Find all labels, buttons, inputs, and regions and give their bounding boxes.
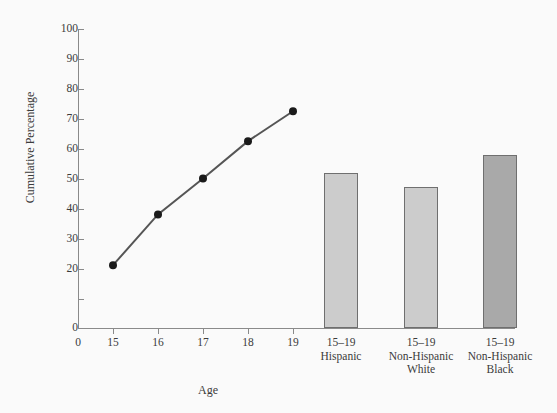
y-tick-label-40: 40 xyxy=(48,203,78,215)
y-tick-100 xyxy=(78,29,84,30)
y-tick-80 xyxy=(78,89,84,90)
y-tick-label-20: 20 xyxy=(48,263,78,275)
y-tick-0 xyxy=(78,328,84,329)
y-tick-label-90: 90 xyxy=(48,53,78,65)
cumulative-markers xyxy=(109,107,297,269)
y-tick-label-80: 80 xyxy=(48,83,78,95)
y-tick-20 xyxy=(78,269,84,270)
y-tick-40 xyxy=(78,209,84,210)
data-point-16 xyxy=(154,210,162,218)
x-tick-label-18: 18 xyxy=(228,336,268,350)
y-tick-60 xyxy=(78,149,84,150)
y-tick-label-70: 70 xyxy=(48,113,78,125)
x-axis-line xyxy=(78,328,515,329)
bar-label-non-hispanic-black: 15–19 Non-Hispanic Black xyxy=(450,336,550,377)
bar-label-nhb-line1: 15–19 xyxy=(450,336,550,350)
x-axis-title: Age xyxy=(178,383,238,398)
bar-non-hispanic-white xyxy=(404,187,438,328)
y-tick-label-60: 60 xyxy=(48,143,78,155)
y-tick-30 xyxy=(78,239,84,240)
y-tick-70 xyxy=(78,119,84,120)
x-tick-label-15: 15 xyxy=(93,336,133,350)
y-tick-90 xyxy=(78,59,84,60)
x-tick-19 xyxy=(293,328,294,334)
x-tick-label-17: 17 xyxy=(183,336,223,350)
bar-label-nhb-line3: Black xyxy=(450,363,550,377)
cumulative-line xyxy=(113,111,293,265)
data-point-19 xyxy=(289,107,297,115)
x-tick-18 xyxy=(248,328,249,334)
y-tick-label-0: 0 xyxy=(48,322,78,334)
x-tick-17 xyxy=(203,328,204,334)
y-tick-label-50: 50 xyxy=(48,173,78,185)
y-tick-50 xyxy=(78,179,84,180)
chart-figure: 100 90 80 70 60 50 40 30 20 0 Cumulative… xyxy=(0,0,557,413)
y-tick-10-hidden xyxy=(78,299,84,300)
data-point-15 xyxy=(109,261,117,269)
y-axis-title: Cumulative Percentage xyxy=(23,48,38,248)
x-origin-label: 0 xyxy=(58,336,98,350)
y-tick-label-30: 30 xyxy=(48,233,78,245)
bar-hispanic xyxy=(324,173,358,328)
data-point-17 xyxy=(199,175,207,183)
y-tick-label-100: 100 xyxy=(48,23,78,35)
x-tick-16 xyxy=(158,328,159,334)
x-tick-label-16: 16 xyxy=(138,336,178,350)
bar-label-nhb-line2: Non-Hispanic xyxy=(450,350,550,364)
data-point-18 xyxy=(244,137,252,145)
x-tick-15 xyxy=(113,328,114,334)
bar-non-hispanic-black xyxy=(483,155,517,328)
